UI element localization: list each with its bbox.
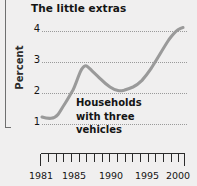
x-axis-ruler xyxy=(41,154,185,166)
annotation-line-2: with three xyxy=(76,110,142,124)
x-tick-label-2000: 2000 xyxy=(157,170,197,181)
y-tick-label-3: 3 xyxy=(28,55,40,65)
x-tick-label-1985: 1985 xyxy=(53,170,95,181)
annotation-line-1: Households xyxy=(76,96,142,110)
chart-figure: Percent The little extras xyxy=(0,0,197,186)
series-annotation: Households with three vehicles xyxy=(76,96,142,137)
y-tick-label-1: 1 xyxy=(28,117,40,127)
y-tick-label-4: 4 xyxy=(28,24,40,34)
annotation-line-3: vehicles xyxy=(76,123,142,137)
y-tick-label-2: 2 xyxy=(28,86,40,96)
